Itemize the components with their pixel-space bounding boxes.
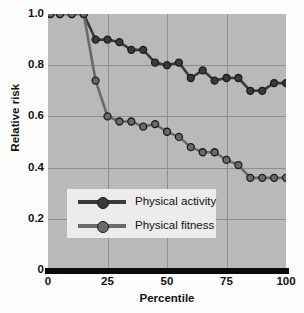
- data-point: [152, 121, 159, 128]
- legend-marker-physical-activity: [78, 195, 126, 209]
- data-point: [271, 174, 278, 181]
- data-point: [104, 113, 111, 120]
- data-point: [164, 62, 171, 69]
- data-point: [140, 123, 147, 130]
- data-point: [247, 87, 254, 94]
- data-point: [235, 162, 242, 169]
- x-tick-label: 50: [147, 276, 187, 288]
- data-point: [92, 36, 99, 43]
- x-tick-label: 0: [28, 276, 68, 288]
- data-point: [56, 14, 63, 18]
- data-point: [259, 87, 266, 94]
- legend-marker-physical-fitness: [78, 219, 126, 233]
- data-point: [247, 174, 254, 181]
- data-point: [223, 75, 230, 82]
- x-tick-label: 100: [266, 276, 304, 288]
- legend-item-physical-activity[interactable]: Physical activity: [67, 190, 216, 214]
- legend-item-physical-fitness[interactable]: Physical fitness: [67, 214, 216, 238]
- y-tick-label: 0: [4, 264, 44, 276]
- data-point: [128, 46, 135, 53]
- data-point: [211, 149, 218, 156]
- data-point: [68, 14, 75, 18]
- y-tick-label: 0.2: [4, 213, 44, 225]
- data-point: [199, 67, 206, 74]
- x-axis-title: Percentile: [48, 293, 286, 305]
- data-point: [283, 174, 287, 181]
- legend-label-physical-fitness: Physical fitness: [135, 220, 214, 232]
- data-point: [152, 59, 159, 66]
- data-point: [235, 75, 242, 82]
- data-point: [259, 174, 266, 181]
- data-point: [140, 46, 147, 53]
- data-point: [164, 128, 171, 135]
- y-tick-label: 1.0: [4, 8, 44, 20]
- x-tick-label: 25: [88, 276, 128, 288]
- data-point: [187, 144, 194, 151]
- data-point: [187, 75, 194, 82]
- data-point: [271, 80, 278, 87]
- legend-label-physical-activity: Physical activity: [135, 196, 216, 208]
- y-tick-labels: 1.00.80.60.40.20: [0, 0, 44, 313]
- data-point: [199, 149, 206, 156]
- data-point: [211, 77, 218, 84]
- y-axis-title: Relative risk: [10, 58, 22, 178]
- data-point: [80, 14, 87, 18]
- data-point: [104, 36, 111, 43]
- data-point: [175, 133, 182, 140]
- data-point: [92, 77, 99, 84]
- data-point: [223, 156, 230, 163]
- data-point: [116, 118, 123, 125]
- x-axis-rule: [45, 268, 289, 274]
- data-point: [175, 59, 182, 66]
- data-point: [128, 118, 135, 125]
- data-point: [283, 80, 287, 87]
- chart-legend: Physical activity Physical fitness: [67, 189, 216, 238]
- data-point: [48, 14, 54, 18]
- data-point: [116, 39, 123, 46]
- x-tick-label: 75: [207, 276, 247, 288]
- chart-figure: 1.00.80.60.40.20 0255075100 Percentile R…: [0, 0, 304, 313]
